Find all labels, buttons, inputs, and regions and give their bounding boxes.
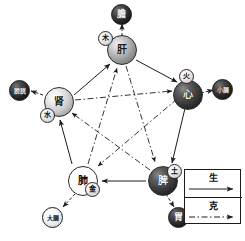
- edge-spleen-to-kidney: [72, 113, 150, 170]
- edge-liver-to-spleen: [126, 66, 155, 162]
- legend-ke-arrow: [185, 210, 242, 224]
- edge-lung-to-kidney: [60, 120, 72, 164]
- element-wood-label: 木: [102, 35, 109, 42]
- bowel-gallbladder-label: 膽: [117, 10, 126, 19]
- bowel-bladder[interactable]: 膀胱: [9, 80, 30, 101]
- edge-liver-to-heart: [136, 60, 177, 82]
- bowel-large-intestine-label: 大腸: [47, 215, 58, 221]
- element-fire-label: 火: [183, 73, 190, 80]
- element-wood[interactable]: 木: [98, 31, 113, 46]
- element-metal[interactable]: 金: [85, 182, 100, 197]
- organ-kidney-label: 肾: [54, 97, 64, 107]
- element-earth-label: 土: [171, 168, 178, 175]
- edge-kidney-to-bladder: [31, 91, 43, 95]
- legend-sheng-arrow: [185, 182, 242, 196]
- edge-kidney-to-heart: [75, 91, 172, 100]
- legend-row-sheng: 生: [185, 170, 242, 197]
- edge-heart-to-spleen: [172, 104, 186, 163]
- edge-spleen-to-stomach: [166, 194, 174, 207]
- legend-box: 生 克: [184, 169, 241, 224]
- five-elements-diagram: 膽 肝 木 心 火 小腸 脾 土 胃 肺 金 大腸 膀胱 肾 水: [0, 0, 245, 241]
- edge-lung-to-large-intestine: [63, 194, 75, 207]
- bowel-small-intestine-label: 小腸: [217, 87, 228, 93]
- legend-row-ke: 克: [185, 197, 242, 225]
- bowel-large-intestine[interactable]: 大腸: [42, 207, 63, 228]
- bowel-bladder-label: 膀胱: [14, 88, 25, 94]
- element-water-label: 水: [44, 112, 51, 119]
- edge-heart-to-lung: [98, 99, 177, 166]
- element-earth[interactable]: 土: [167, 164, 182, 179]
- organ-heart-label: 心: [183, 90, 193, 100]
- element-metal-label: 金: [89, 186, 96, 193]
- ke-cycle-edges: [72, 66, 177, 170]
- bowel-small-intestine[interactable]: 小腸: [212, 79, 233, 100]
- organ-spleen-label: 脾: [158, 176, 168, 186]
- bowel-gallbladder[interactable]: 膽: [111, 4, 132, 25]
- sheng-cycle-edges: [60, 60, 186, 181]
- edge-lung-to-liver: [88, 68, 117, 164]
- organ-heart[interactable]: 心: [173, 80, 203, 110]
- element-fire[interactable]: 火: [179, 69, 194, 84]
- bowel-stomach-label: 胃: [174, 213, 183, 222]
- edge-kidney-to-liver: [74, 64, 110, 95]
- element-water[interactable]: 水: [40, 108, 55, 123]
- organ-liver-label: 肝: [117, 45, 127, 55]
